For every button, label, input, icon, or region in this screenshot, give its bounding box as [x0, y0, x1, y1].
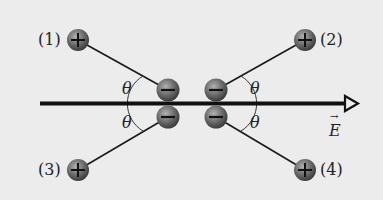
positive-charge-1	[67, 29, 89, 51]
angle-label-lower-right: θ	[250, 115, 260, 131]
field-arrowhead-icon	[345, 96, 358, 111]
negative-charge-2	[205, 79, 228, 102]
negative-charge-3	[157, 106, 180, 129]
positive-charge-4	[294, 159, 316, 181]
angle-label-lower-left: θ	[122, 115, 132, 131]
rod-2	[216, 40, 305, 90]
label-dipole-1: (1)	[38, 32, 61, 48]
label-dipole-3: (3)	[38, 162, 61, 178]
positive-charge-2	[294, 29, 316, 51]
label-dipole-2: (2)	[320, 32, 343, 48]
rod-4	[216, 117, 305, 170]
field-label: E	[329, 123, 341, 139]
negative-charge-1	[157, 79, 180, 102]
angle-label-upper-left: θ	[122, 81, 132, 97]
positive-charge-3	[67, 159, 89, 181]
label-dipole-4: (4)	[320, 162, 343, 178]
negative-charge-4	[205, 106, 228, 129]
angle-label-upper-right: θ	[250, 81, 260, 97]
